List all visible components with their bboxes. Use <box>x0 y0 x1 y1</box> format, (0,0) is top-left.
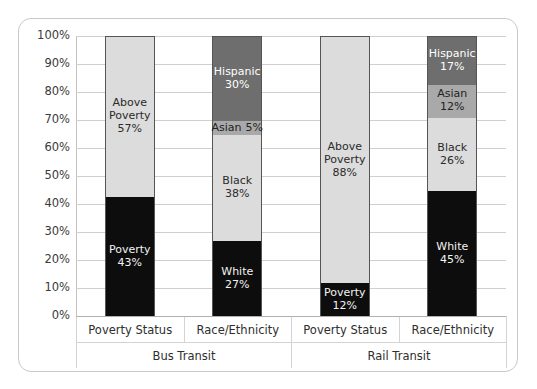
bar-segment[interactable]: AbovePoverty57% <box>106 37 154 197</box>
y-axis-tick-label: 20% <box>22 254 70 266</box>
axis-right-edge <box>506 316 507 368</box>
y-axis-tick-label: 90% <box>22 58 70 70</box>
y-axis-tick-labels: 0%10%20%30%40%50%60%70%80%90%100% <box>19 36 76 316</box>
category-label: Race/Ethnicity <box>399 317 507 343</box>
bar-segment-value: 45% <box>440 254 464 267</box>
bar-segment[interactable]: Poverty43% <box>106 197 154 317</box>
y-axis-tick-label: 50% <box>22 170 70 182</box>
group-label: Rail Transit <box>291 342 506 368</box>
y-axis-tick-label: 30% <box>22 226 70 238</box>
bar-segment-label: Black <box>437 142 467 155</box>
bar-segment-value: 88% <box>333 167 357 180</box>
y-axis-tick-label: 40% <box>22 198 70 210</box>
y-axis-tick-label: 70% <box>22 114 70 126</box>
bar-segment[interactable]: AbovePoverty88% <box>321 37 369 283</box>
category-axis: Poverty StatusRace/EthnicityPoverty Stat… <box>76 316 506 368</box>
y-axis-tick-label: 100% <box>22 30 70 42</box>
bar-segment-label: AbovePoverty <box>109 97 151 123</box>
bar-segment-value: 30% <box>225 79 249 92</box>
bar-segment[interactable]: Poverty12% <box>321 283 369 317</box>
chart-container: 0%10%20%30%40%50%60%70%80%90%100% Povert… <box>18 18 518 372</box>
bar-segment-value: 38% <box>225 188 249 201</box>
category-label: Poverty Status <box>291 317 399 343</box>
bar-segment-value: 26% <box>440 155 464 168</box>
bar-segment[interactable]: Hispanic17% <box>428 37 476 85</box>
y-axis-tick-label: 80% <box>22 86 70 98</box>
bar-segment[interactable]: Hispanic30% <box>213 37 261 121</box>
bar-segment[interactable]: White45% <box>428 191 476 317</box>
stacked-bar[interactable]: White27%Black38%Asian5%Hispanic30% <box>212 36 262 316</box>
bar-segment[interactable]: Black38% <box>213 135 261 241</box>
bar-segment-value: 27% <box>225 279 249 292</box>
bar-segment[interactable]: Black26% <box>428 118 476 191</box>
bar-segment-label: Poverty <box>109 244 151 257</box>
bar-segment-label: AbovePoverty <box>324 141 366 167</box>
y-axis-tick-label: 60% <box>22 142 70 154</box>
category-label: Race/Ethnicity <box>184 317 292 343</box>
bar-segment-value: 43% <box>118 257 142 270</box>
stacked-bar[interactable]: White45%Black26%Asian12%Hispanic17% <box>427 36 477 316</box>
plot-area: Poverty43%AbovePoverty57%White27%Black38… <box>76 36 506 316</box>
bar-segment-label: Hispanic <box>429 48 476 61</box>
bar-segment-value: 12% <box>333 300 357 313</box>
group-row: Bus TransitRail Transit <box>76 342 506 368</box>
bar-segment-value: 12% <box>440 101 464 114</box>
category-label: Poverty Status <box>76 317 184 343</box>
bar-segment[interactable]: White27% <box>213 241 261 317</box>
bar-segment-label: Asian <box>212 122 242 135</box>
bar-segment[interactable]: Asian5% <box>213 121 261 135</box>
y-axis-tick-label: 0% <box>22 310 70 322</box>
y-axis-tick-label: 10% <box>22 282 70 294</box>
bar-segment-value: 57% <box>118 123 142 136</box>
group-label: Bus Transit <box>76 342 291 368</box>
bar-segment-value: 5% <box>246 122 263 135</box>
bar-segment[interactable]: Asian12% <box>428 85 476 119</box>
stacked-bar[interactable]: Poverty12%AbovePoverty88% <box>320 36 370 316</box>
category-row: Poverty StatusRace/EthnicityPoverty Stat… <box>76 316 506 343</box>
bar-segment-value: 17% <box>440 61 464 74</box>
stacked-bar[interactable]: Poverty43%AbovePoverty57% <box>105 36 155 316</box>
